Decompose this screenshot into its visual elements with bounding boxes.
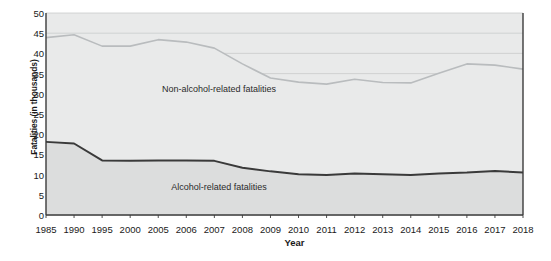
x-tick-label: 2008 [232, 224, 253, 235]
series-label: Alcohol-related fatalities [171, 182, 267, 192]
x-tick-label: 2018 [512, 224, 533, 235]
x-tick-label: 2014 [400, 224, 421, 235]
x-tick-label: 2000 [120, 224, 141, 235]
x-tick-label: 2006 [176, 224, 197, 235]
x-tick-label: 2017 [484, 224, 505, 235]
x-tick-label: 2005 [148, 224, 169, 235]
x-tick-label: 2011 [316, 224, 336, 235]
x-tick-label: 2013 [372, 224, 393, 235]
x-tick-label: 1995 [92, 224, 113, 235]
x-tick-label: 1990 [63, 224, 84, 235]
x-tick-label: 2015 [428, 224, 449, 235]
fatalities-area-chart: 05101520253035404550 Fatalities (in thou… [0, 0, 551, 261]
x-tick-label: 2016 [456, 224, 477, 235]
x-tick-label: 2007 [204, 224, 225, 235]
x-tick-label: 2012 [344, 224, 365, 235]
x-axis-tick-labels: 1985199019952000200520062007200820092010… [0, 218, 551, 238]
series-label: Non-alcohol-related fatalities [162, 84, 276, 94]
x-tick-label: 2009 [260, 224, 281, 235]
x-axis-title: Year [0, 237, 551, 248]
x-tick-label: 1985 [35, 224, 56, 235]
x-tick-label: 2010 [288, 224, 309, 235]
